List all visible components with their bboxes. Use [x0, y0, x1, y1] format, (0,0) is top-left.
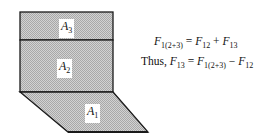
label-a3: A3: [59, 19, 74, 38]
equation-2: Thus, F13 = F1(2+3) − F12: [141, 55, 253, 70]
surface-a1: [20, 92, 148, 132]
equation-1: F1(2+3) = F12 + F13: [154, 35, 237, 50]
label-a2: A2: [57, 59, 72, 78]
label-a1: A1: [85, 104, 100, 123]
